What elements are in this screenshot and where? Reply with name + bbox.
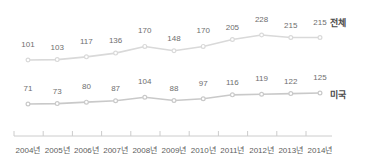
data-point-label: 104 bbox=[138, 77, 151, 86]
x-axis-tick-label: 2004년 bbox=[16, 144, 41, 155]
data-point-label: 170 bbox=[138, 26, 151, 35]
data-point-marker bbox=[26, 58, 30, 62]
data-point-label: 88 bbox=[170, 84, 179, 93]
x-axis-tick-label: 2014년 bbox=[308, 144, 333, 155]
x-axis-tick-label: 2013년 bbox=[278, 144, 303, 155]
data-point-label: 116 bbox=[226, 78, 239, 87]
series-label-1: 전체 bbox=[330, 16, 346, 29]
data-point-marker bbox=[231, 93, 235, 97]
line-chart-plot bbox=[0, 0, 366, 164]
data-point-marker bbox=[231, 38, 235, 42]
data-point-marker bbox=[172, 99, 176, 103]
data-point-marker bbox=[26, 102, 30, 106]
data-point-marker bbox=[318, 91, 322, 95]
data-point-marker bbox=[289, 36, 293, 40]
data-point-label: 117 bbox=[80, 37, 93, 46]
x-axis-tick-label: 2007년 bbox=[103, 144, 128, 155]
data-point-label: 170 bbox=[197, 26, 210, 35]
data-point-label: 205 bbox=[226, 23, 239, 32]
data-point-marker bbox=[143, 95, 147, 99]
data-point-label: 228 bbox=[255, 15, 268, 24]
data-point-label: 87 bbox=[111, 84, 120, 93]
data-point-marker bbox=[55, 102, 59, 106]
data-point-label: 122 bbox=[284, 77, 297, 86]
series-label-2: 미국 bbox=[330, 88, 346, 101]
data-point-marker bbox=[55, 58, 59, 62]
data-point-label: 80 bbox=[82, 82, 91, 91]
data-point-marker bbox=[318, 36, 322, 40]
data-point-label: 215 bbox=[284, 21, 297, 30]
data-point-marker bbox=[260, 33, 264, 37]
x-axis-tick-label: 2009년 bbox=[162, 144, 187, 155]
data-point-label: 101 bbox=[21, 40, 34, 49]
data-point-label: 97 bbox=[199, 79, 208, 88]
x-axis-tick-label: 2011년 bbox=[220, 144, 244, 155]
x-axis-tick-label: 2010년 bbox=[191, 144, 216, 155]
data-point-label: 215 bbox=[313, 18, 326, 27]
data-point-label: 136 bbox=[109, 36, 122, 45]
x-axis-tick-label: 2006년 bbox=[74, 144, 99, 155]
data-point-marker bbox=[114, 99, 118, 103]
data-point-label: 71 bbox=[24, 84, 33, 93]
data-point-label: 148 bbox=[167, 34, 180, 43]
data-point-marker bbox=[114, 51, 118, 55]
data-point-marker bbox=[289, 92, 293, 96]
data-point-label: 119 bbox=[255, 74, 268, 83]
data-point-marker bbox=[85, 55, 89, 59]
data-point-marker bbox=[85, 100, 89, 104]
x-axis-tick-label: 2008년 bbox=[132, 144, 157, 155]
data-point-marker bbox=[260, 92, 264, 96]
data-point-marker bbox=[201, 97, 205, 101]
data-point-label: 73 bbox=[53, 87, 62, 96]
data-point-label: 125 bbox=[313, 73, 326, 82]
data-point-marker bbox=[172, 49, 176, 53]
data-point-label: 103 bbox=[51, 43, 64, 52]
x-axis-tick-label: 2005년 bbox=[45, 144, 70, 155]
data-point-marker bbox=[201, 45, 205, 49]
x-axis-tick-label: 2012년 bbox=[249, 144, 274, 155]
data-point-marker bbox=[143, 45, 147, 49]
chart-container: 101103117136170148170205228215215전체71738… bbox=[0, 0, 366, 164]
